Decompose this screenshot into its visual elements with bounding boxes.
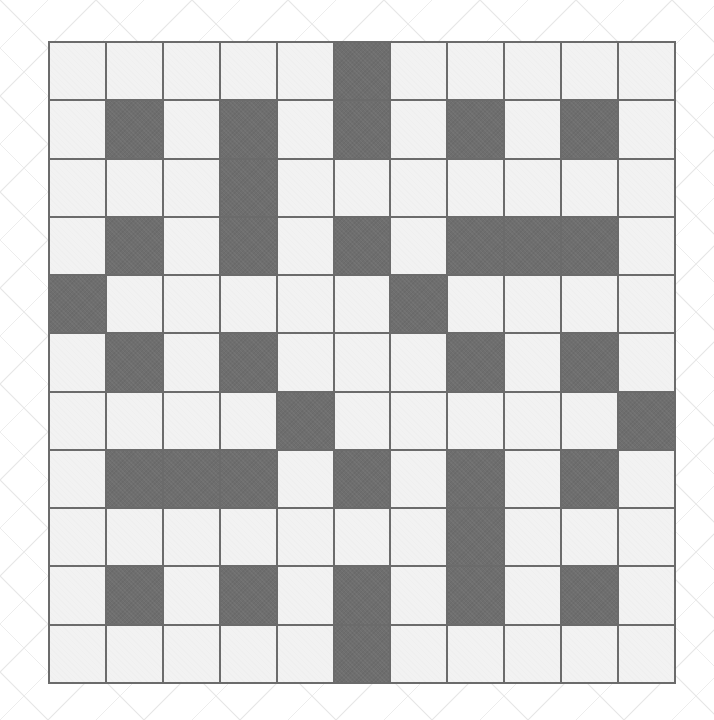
crossword-cell-blocked (562, 567, 619, 625)
crossword-cell-open[interactable] (164, 393, 221, 451)
crossword-cell-open[interactable] (335, 393, 392, 451)
crossword-cell-open[interactable] (164, 567, 221, 625)
crossword-cell-open[interactable] (505, 276, 562, 334)
crossword-cell-open[interactable] (619, 509, 676, 567)
crossword-cell-open[interactable] (505, 334, 562, 392)
crossword-cell-open[interactable] (278, 451, 335, 509)
crossword-cell-open[interactable] (391, 334, 448, 392)
crossword-cell-open[interactable] (164, 334, 221, 392)
crossword-cell-open[interactable] (107, 276, 164, 334)
crossword-cell-open[interactable] (391, 101, 448, 159)
crossword-cell-open[interactable] (221, 43, 278, 101)
crossword-cell-blocked (107, 567, 164, 625)
crossword-cell-open[interactable] (562, 626, 619, 684)
crossword-cell-open[interactable] (335, 160, 392, 218)
crossword-cell-open[interactable] (448, 43, 505, 101)
crossword-cell-blocked (448, 334, 505, 392)
crossword-cell-open[interactable] (335, 276, 392, 334)
crossword-cell-open[interactable] (278, 43, 335, 101)
crossword-cell-open[interactable] (164, 160, 221, 218)
crossword-cell-open[interactable] (50, 334, 107, 392)
crossword-cell-open[interactable] (505, 567, 562, 625)
crossword-cell-open[interactable] (619, 334, 676, 392)
crossword-cell-open[interactable] (562, 43, 619, 101)
crossword-cell-open[interactable] (391, 43, 448, 101)
crossword-cell-open[interactable] (619, 567, 676, 625)
crossword-cell-open[interactable] (278, 509, 335, 567)
crossword-cell-open[interactable] (505, 160, 562, 218)
crossword-cell-open[interactable] (221, 509, 278, 567)
crossword-cell-open[interactable] (50, 567, 107, 625)
crossword-cell-open[interactable] (50, 393, 107, 451)
crossword-cell-open[interactable] (562, 160, 619, 218)
crossword-cell-open[interactable] (391, 218, 448, 276)
crossword-cell-open[interactable] (505, 101, 562, 159)
crossword-cell-open[interactable] (278, 334, 335, 392)
crossword-cell-open[interactable] (391, 393, 448, 451)
crossword-cell-blocked (164, 451, 221, 509)
crossword-cell-open[interactable] (391, 160, 448, 218)
crossword-cell-open[interactable] (505, 451, 562, 509)
crossword-cell-blocked (335, 218, 392, 276)
crossword-cell-open[interactable] (448, 276, 505, 334)
crossword-cell-open[interactable] (335, 334, 392, 392)
crossword-cell-open[interactable] (221, 393, 278, 451)
crossword-cell-open[interactable] (107, 393, 164, 451)
crossword-cell-open[interactable] (278, 567, 335, 625)
crossword-cell-open[interactable] (619, 451, 676, 509)
crossword-cell-open[interactable] (50, 218, 107, 276)
crossword-cell-open[interactable] (50, 626, 107, 684)
crossword-cell-open[interactable] (505, 393, 562, 451)
crossword-cell-open[interactable] (619, 43, 676, 101)
crossword-cell-open[interactable] (505, 43, 562, 101)
crossword-cell-blocked (335, 626, 392, 684)
crossword-cell-blocked (448, 567, 505, 625)
crossword-cell-open[interactable] (50, 160, 107, 218)
crossword-cell-open[interactable] (391, 509, 448, 567)
crossword-cell-open[interactable] (619, 101, 676, 159)
crossword-cell-open[interactable] (562, 393, 619, 451)
crossword-cell-blocked (448, 509, 505, 567)
crossword-cell-open[interactable] (221, 626, 278, 684)
crossword-cell-open[interactable] (50, 509, 107, 567)
crossword-cell-open[interactable] (164, 626, 221, 684)
crossword-cell-open[interactable] (221, 276, 278, 334)
crossword-cell-open[interactable] (335, 509, 392, 567)
crossword-cell-open[interactable] (50, 43, 107, 101)
crossword-cell-open[interactable] (619, 218, 676, 276)
crossword-cell-blocked (562, 334, 619, 392)
crossword-cell-open[interactable] (391, 451, 448, 509)
crossword-cell-open[interactable] (448, 626, 505, 684)
crossword-cell-open[interactable] (107, 626, 164, 684)
crossword-cell-open[interactable] (448, 393, 505, 451)
crossword-cell-open[interactable] (278, 276, 335, 334)
crossword-cell-open[interactable] (448, 160, 505, 218)
crossword-cell-open[interactable] (278, 218, 335, 276)
crossword-cell-open[interactable] (391, 567, 448, 625)
crossword-cell-open[interactable] (164, 276, 221, 334)
crossword-cell-blocked (335, 101, 392, 159)
crossword-cell-open[interactable] (619, 276, 676, 334)
crossword-cell-open[interactable] (562, 276, 619, 334)
crossword-cell-open[interactable] (619, 626, 676, 684)
crossword-cell-open[interactable] (391, 626, 448, 684)
crossword-cell-open[interactable] (50, 101, 107, 159)
crossword-cell-blocked (335, 451, 392, 509)
crossword-cell-open[interactable] (505, 626, 562, 684)
crossword-cell-open[interactable] (164, 43, 221, 101)
crossword-cell-open[interactable] (562, 509, 619, 567)
crossword-cell-open[interactable] (107, 509, 164, 567)
crossword-cell-open[interactable] (278, 101, 335, 159)
crossword-cell-open[interactable] (107, 160, 164, 218)
crossword-cell-open[interactable] (278, 626, 335, 684)
crossword-grid[interactable] (48, 41, 676, 684)
crossword-cell-open[interactable] (278, 160, 335, 218)
crossword-cell-open[interactable] (164, 101, 221, 159)
crossword-cell-open[interactable] (619, 160, 676, 218)
crossword-cell-open[interactable] (107, 43, 164, 101)
crossword-cell-open[interactable] (164, 218, 221, 276)
crossword-cell-open[interactable] (164, 509, 221, 567)
crossword-cell-open[interactable] (50, 451, 107, 509)
crossword-cell-open[interactable] (505, 509, 562, 567)
crossword-cell-blocked (107, 218, 164, 276)
